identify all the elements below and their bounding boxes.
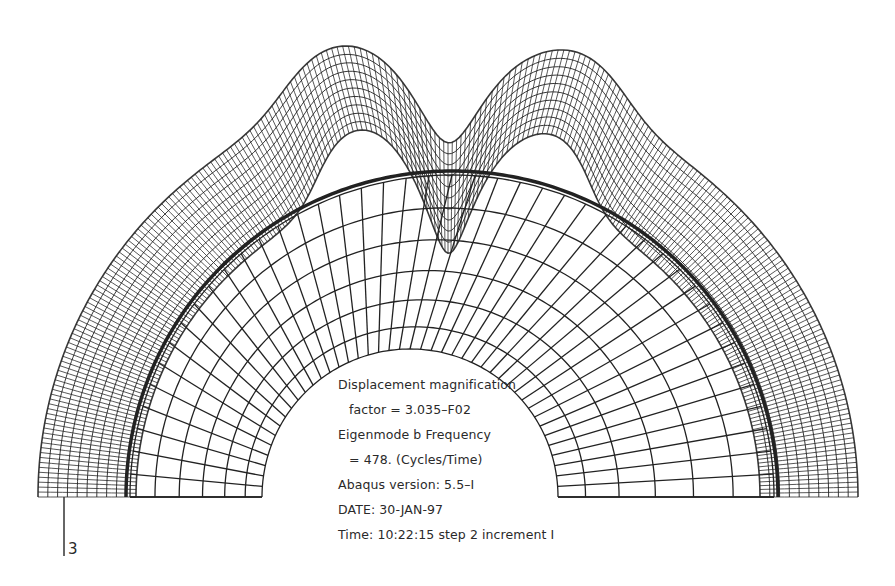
annotation-factor: factor = 3.035–F02 xyxy=(349,402,471,417)
annotation-time: Time: 10:22:15 step 2 increment I xyxy=(338,527,554,542)
axis-label-3: 3 xyxy=(68,540,78,558)
annotation-date: DATE: 30-JAN-97 xyxy=(338,502,443,517)
annotation-displacement: Displacement magnification xyxy=(338,377,516,392)
fe-mesh-plot xyxy=(0,0,895,586)
annotation-eigenmode: Eigenmode b Frequency xyxy=(338,427,491,442)
undeformed-mesh xyxy=(130,175,774,497)
annotation-frequency: = 478. (Cycles/Time) xyxy=(349,452,482,467)
annotation-version: Abaqus version: 5.5–I xyxy=(338,477,474,492)
figure-canvas: 3 Displacement magnification factor = 3.… xyxy=(0,0,895,586)
